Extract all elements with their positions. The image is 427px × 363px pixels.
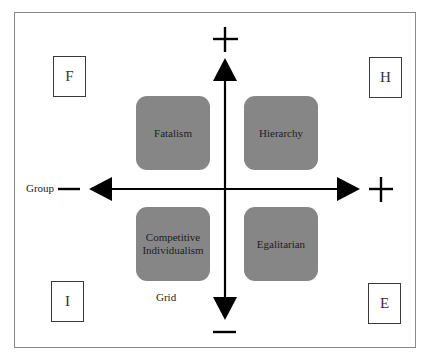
down-arrowhead-icon [213,297,237,320]
quadrant-hierarchy: Hierarchy [244,96,318,170]
quadrant-label: Competitive Individualism [140,231,206,257]
right-arrowhead-icon [337,177,360,201]
corner-letter: E [380,295,389,312]
corner-box-e: E [368,283,401,324]
quadrant-label: Fatalism [154,127,192,140]
corner-box-f: F [53,56,86,97]
grid-axis-label: Grid [156,291,176,303]
corner-letter: H [380,69,391,86]
quadrant-competitive-individualism: Competitive Individualism [136,207,210,281]
corner-box-i: I [51,281,84,322]
up-arrowhead-icon [213,58,237,81]
quadrant-label: Egalitarian [257,238,305,251]
corner-letter: F [65,68,73,85]
group-axis-label: Group [26,182,54,194]
quadrant-fatalism: Fatalism [136,96,210,170]
corner-box-h: H [369,57,402,98]
quadrant-egalitarian: Egalitarian [244,207,318,281]
quadrant-label: Hierarchy [259,127,303,140]
left-arrowhead-icon [89,177,112,201]
corner-letter: I [65,293,70,310]
